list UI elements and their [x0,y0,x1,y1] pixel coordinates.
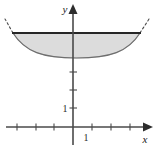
x-axis-arrowhead [143,123,153,132]
x-unit-tick-label: 1 [84,132,89,143]
graph-canvas: x y 1 1 [0,0,159,150]
y-unit-tick-label: 1 [63,103,68,114]
graph-figure: x y 1 1 [0,0,159,150]
parabola-dashed-left [5,19,13,33]
parabola-dashed-right [140,19,149,33]
shaded-region [13,33,140,58]
y-axis-arrowhead [69,4,78,14]
y-axis-label: y [62,3,68,15]
x-axis-label: x [142,133,148,145]
